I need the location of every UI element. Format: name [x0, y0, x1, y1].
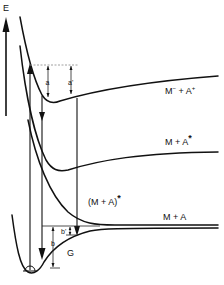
- ground-complex-label: G: [67, 248, 74, 258]
- gap-a-label: a: [46, 79, 50, 86]
- gap-b-label: b: [51, 240, 55, 247]
- gap-b-markers: b b': [42, 226, 100, 268]
- arrow-down-icon: [39, 248, 46, 260]
- energy-axis-label: E: [3, 3, 9, 13]
- ground-dissociated-label: M + A: [163, 212, 186, 222]
- energy-axis: E: [3, 3, 10, 116]
- ground-state-curve: [12, 215, 218, 273]
- exciplex-label: (M + A)*: [88, 193, 121, 207]
- arrow-down-icon: [39, 112, 45, 121]
- gap-a-markers: a a': [30, 65, 78, 97]
- potential-energy-diagram: E a: [0, 0, 224, 285]
- excited-acceptor-curve: [20, 46, 218, 171]
- ion-pair-label: M− + A+: [165, 85, 196, 96]
- arrow-up-icon: [3, 17, 10, 32]
- gap-a-prime-label: a': [68, 79, 73, 86]
- excited-acceptor-label: M + A*: [165, 133, 192, 147]
- gap-b-prime-label: b': [61, 228, 66, 235]
- transitions: [27, 63, 80, 270]
